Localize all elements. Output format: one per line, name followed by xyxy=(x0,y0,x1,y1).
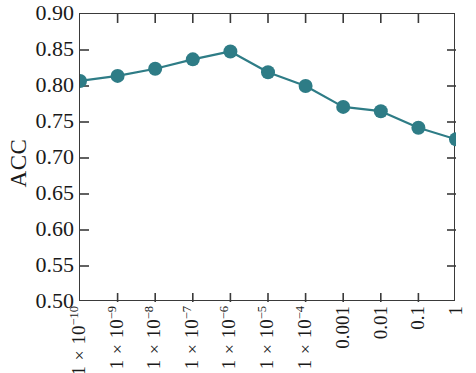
x-axis-tick-label: 1 × 10−10 xyxy=(71,306,87,370)
x-axis-tick-label: 1 × 10−5 xyxy=(259,306,275,370)
x-axis-tick-label: 1 × 10−6 xyxy=(221,306,237,370)
x-axis-tick-label: 1 xyxy=(447,306,463,370)
x-axis-tick-label: 0.001 xyxy=(334,306,350,370)
accuracy-line-chart: ACC 0.500.550.600.650.700.750.800.850.90… xyxy=(0,0,476,373)
x-axis-tick-label: 1 × 10−7 xyxy=(184,306,200,370)
x-axis-tick-label: 0.1 xyxy=(409,306,425,370)
x-axis-tick-label: 0.01 xyxy=(372,306,388,370)
x-axis-tick-label: 1 × 10−9 xyxy=(109,306,125,370)
x-axis-tick-label: 1 × 10−4 xyxy=(297,306,313,370)
x-axis-tick-label: 1 × 10−8 xyxy=(146,306,162,370)
x-axis-tick-labels: 1 × 10−101 × 10−91 × 10−81 × 10−71 × 10−… xyxy=(0,0,476,373)
